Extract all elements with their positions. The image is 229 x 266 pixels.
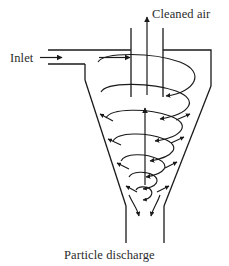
cyclone-separator-figure: Inlet Cleaned air Particle discharge <box>0 0 229 266</box>
discharge-downward-arrows <box>129 195 160 216</box>
cleaned-air-label: Cleaned air <box>152 7 210 22</box>
cyclone-cylindrical-body <box>163 50 211 86</box>
inlet-label: Inlet <box>10 51 33 66</box>
particle-discharge-outlet <box>126 206 164 243</box>
particle-discharge-label: Particle discharge <box>64 248 155 263</box>
cyclone-diagram-svg <box>0 0 229 266</box>
particle-wall-migration-arrows-left <box>100 114 137 192</box>
